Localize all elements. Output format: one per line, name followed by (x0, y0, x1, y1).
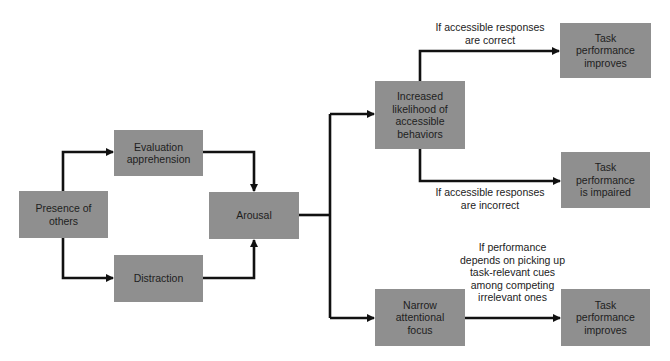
node-arousal: Arousal (209, 192, 299, 239)
edge-label-cues: If performance depends on picking up tas… (450, 241, 575, 304)
node-label: Task performance improves (576, 32, 635, 70)
node-label: Narrow attentional focus (396, 299, 444, 337)
node-label: Evaluation apprehension (127, 141, 191, 166)
node-label: Task performance is impaired (576, 161, 635, 199)
node-label: Presence of others (35, 202, 91, 227)
node-label: Distraction (134, 272, 184, 285)
node-label: Task performance improves (576, 299, 635, 337)
node-label: Increased likelihood of accessible behav… (392, 90, 447, 140)
node-evaluation-apprehension: Evaluation apprehension (114, 130, 203, 176)
node-increased-likelihood: Increased likelihood of accessible behav… (375, 81, 465, 149)
node-task-performance-impaired: Task performance is impaired (561, 152, 650, 208)
edge-label-correct: If accessible responses are correct (425, 21, 555, 46)
node-presence-of-others: Presence of others (19, 191, 108, 238)
node-task-performance-improves-1: Task performance improves (560, 23, 651, 78)
node-distraction: Distraction (114, 255, 203, 302)
node-label: Arousal (236, 209, 272, 222)
edge-label-incorrect: If accessible responses are incorrect (425, 186, 555, 211)
